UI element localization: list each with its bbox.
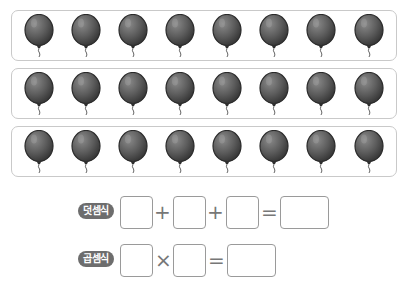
addition-blank-3[interactable] — [226, 196, 259, 229]
balloon-icon — [211, 130, 243, 174]
balloon-row-2 — [11, 68, 397, 119]
multiplication-blank-2[interactable] — [173, 244, 206, 277]
multiplication-blank-1[interactable] — [120, 244, 153, 277]
balloon-icon — [353, 72, 385, 116]
multiplication-label-badge: 곱셈식 — [78, 251, 114, 267]
plus-sign-1: + — [154, 202, 171, 222]
times-sign: × — [155, 250, 172, 270]
balloon-icon — [211, 72, 243, 116]
balloon-icon — [23, 14, 55, 58]
addition-result-blank[interactable] — [280, 196, 329, 229]
balloon-icon — [305, 130, 337, 174]
balloon-icon — [70, 72, 102, 116]
balloon-icon — [353, 14, 385, 58]
balloon-icon — [23, 72, 55, 116]
balloon-icon — [164, 130, 196, 174]
balloon-icon — [70, 14, 102, 58]
addition-blank-2[interactable] — [173, 196, 206, 229]
plus-sign-2: + — [207, 202, 224, 222]
balloon-icon — [23, 130, 55, 174]
balloon-icon — [164, 72, 196, 116]
multiplication-result-blank[interactable] — [227, 244, 276, 277]
addition-label-badge: 덧셈식 — [78, 203, 114, 219]
balloon-row-3 — [11, 126, 397, 177]
addition-blank-1[interactable] — [120, 196, 153, 229]
balloon-icon — [305, 72, 337, 116]
balloon-icon — [117, 130, 149, 174]
balloon-icon — [117, 14, 149, 58]
balloon-icon — [258, 130, 290, 174]
balloon-icon — [70, 130, 102, 174]
balloon-icon — [117, 72, 149, 116]
balloon-icon — [258, 14, 290, 58]
balloon-icon — [353, 130, 385, 174]
balloon-icon — [305, 14, 337, 58]
balloon-row-1 — [11, 10, 397, 61]
equals-sign-multiplication: = — [208, 250, 225, 270]
balloon-icon — [211, 14, 243, 58]
equals-sign-addition: = — [261, 202, 278, 222]
balloon-icon — [258, 72, 290, 116]
balloon-icon — [164, 14, 196, 58]
